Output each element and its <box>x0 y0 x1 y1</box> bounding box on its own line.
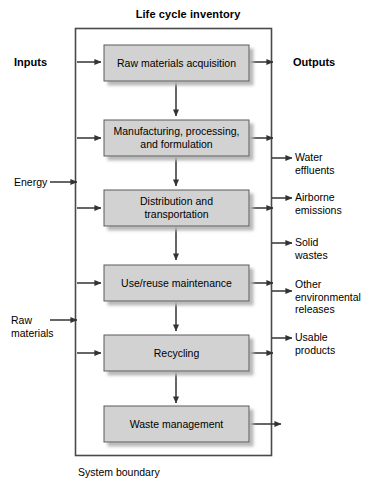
input-label-energy: Energy <box>14 176 47 189</box>
process-box-label-waste-management[interactable]: Waste management <box>104 406 249 442</box>
process-box-label-recycling[interactable]: Recycling <box>104 335 249 371</box>
process-box-label-raw-materials-acquisition[interactable]: Raw materials acquisition <box>104 45 249 81</box>
diagram-page: Life cycle inventory <box>0 0 376 497</box>
external-output-arrows <box>272 158 292 338</box>
external-input-arrows <box>50 182 77 320</box>
output-label-solid-wastes: Solid wastes <box>295 236 328 261</box>
output-label-airborne-emissions: Airborne emissions <box>295 191 342 216</box>
output-label-other-environmental-releases: Other environmental releases <box>295 278 361 316</box>
process-box-label-use-reuse-maintenance[interactable]: Use/reuse maintenance <box>104 265 249 301</box>
output-label-usable-products: Usable products <box>295 331 335 356</box>
input-branch-arrows <box>77 62 101 353</box>
outputs-header: Outputs <box>293 56 335 69</box>
process-box-label-distribution[interactable]: Distribution and transportation <box>104 190 249 226</box>
input-label-raw-materials: Raw materials <box>11 314 54 339</box>
inputs-header: Inputs <box>14 56 47 69</box>
process-box-label-manufacturing[interactable]: Manufacturing, processing, and formulati… <box>104 120 249 156</box>
system-boundary-rect <box>76 29 272 456</box>
output-label-water-effluents: Water effluents <box>295 151 335 176</box>
system-boundary-caption: System boundary <box>78 466 160 479</box>
